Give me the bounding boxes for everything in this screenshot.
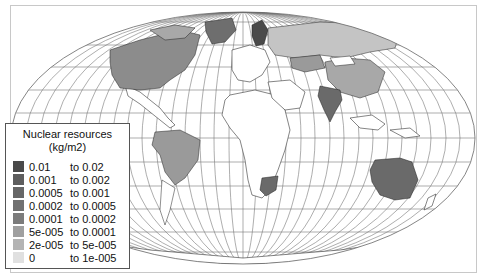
region-brazil [152, 130, 200, 185]
legend-title: Nuclear resources (kg/m2) [6, 128, 129, 154]
legend-swatch [13, 213, 24, 224]
legend-low: 0.01 [29, 161, 70, 173]
legend-item: 0.0001 to 0.0002 [13, 212, 116, 225]
legend-low: 5e-005 [29, 226, 70, 238]
legend-high: to 0.0002 [70, 213, 116, 225]
legend-low: 0.0002 [29, 200, 70, 212]
legend-title-line1: Nuclear resources [6, 128, 129, 141]
region-scandinavia [252, 20, 268, 46]
legend-low: 2e-005 [29, 239, 70, 251]
legend-high: to 1e-005 [70, 252, 116, 264]
legend-item: 0.001 to 0.002 [13, 173, 110, 186]
region-kazakhstan [290, 55, 325, 72]
region-russia [268, 22, 400, 58]
legend-low: 0.0005 [29, 187, 70, 199]
legend-swatch [13, 239, 24, 250]
legend-item: 0.01 to 0.02 [13, 160, 104, 173]
legend-item: 5e-005 to 0.0001 [13, 225, 116, 238]
legend-swatch [13, 200, 24, 211]
legend-swatch [13, 187, 24, 198]
legend-high: to 5e-005 [70, 239, 116, 251]
legend-title-line2: (kg/m2) [6, 141, 129, 154]
legend-high: to 0.001 [70, 187, 110, 199]
legend: Nuclear resources (kg/m2) 0.01 to 0.02 0… [5, 123, 130, 269]
legend-high: to 0.002 [70, 174, 110, 186]
legend-low: 0 [29, 252, 70, 264]
region-india [318, 86, 342, 122]
legend-high: to 0.02 [70, 161, 104, 173]
legend-swatch [13, 161, 24, 172]
legend-item: 0.0002 to 0.0005 [13, 199, 116, 212]
region-south-africa [260, 176, 278, 196]
legend-low: 0.001 [29, 174, 70, 186]
region-north-america [110, 30, 200, 90]
legend-swatch [13, 226, 24, 237]
legend-high: to 0.0005 [70, 200, 116, 212]
region-greenland [205, 18, 236, 44]
legend-swatch [13, 252, 24, 263]
legend-high: to 0.0001 [70, 226, 116, 238]
legend-low: 0.0001 [29, 213, 70, 225]
legend-swatch [13, 174, 24, 185]
legend-item: 0 to 1e-005 [13, 251, 116, 264]
legend-item: 2e-005 to 5e-005 [13, 238, 116, 251]
legend-item: 0.0005 to 0.001 [13, 186, 110, 199]
region-australia [370, 158, 418, 200]
